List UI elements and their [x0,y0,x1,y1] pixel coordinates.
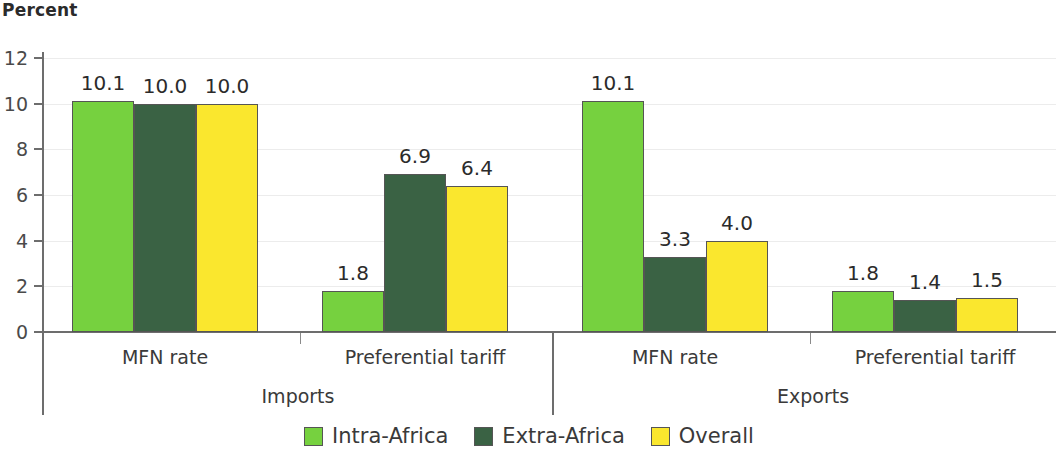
legend-item: Extra-Africa [474,424,624,448]
bar-value-label: 1.8 [337,261,369,285]
x-axis-category-label: Preferential tariff [855,346,1016,368]
plot-area: 10.110.010.01.86.96.410.13.34.01.81.41.5 [44,58,1056,332]
y-axis-tick-label: 8 [0,138,28,160]
bar-value-label: 6.9 [399,144,431,168]
group-separator-line [552,331,554,415]
legend-item: Intra-Africa [304,424,448,448]
y-axis-tick-mark [34,57,43,59]
legend-swatch [304,427,323,446]
legend-swatch [651,427,670,446]
legend-label: Overall [679,424,754,448]
y-axis-tick-label: 0 [0,321,28,343]
bar-value-label: 4.0 [721,211,753,235]
bar-value-label: 1.5 [971,268,1003,292]
x-axis-category-label: MFN rate [122,346,208,368]
y-axis-tick-mark [34,148,43,150]
bar-value-label: 6.4 [461,156,493,180]
bar [706,241,768,332]
legend-label: Extra-Africa [502,424,624,448]
bar-value-label: 10.0 [143,74,188,98]
y-axis-tick-label: 10 [0,93,28,115]
x-axis-tick-mark [300,333,301,344]
bar-value-label: 1.8 [847,261,879,285]
bar [956,298,1018,332]
bar [322,291,384,332]
bar [446,186,508,332]
y-axis-tick-label: 4 [0,230,28,252]
bar-value-label: 3.3 [659,227,691,251]
y-axis-tick-label: 6 [0,184,28,206]
y-axis-tick-label: 2 [0,275,28,297]
y-axis-tick-mark [34,240,43,242]
x-axis-group-label: Exports [777,385,849,407]
y-axis-tick-mark [34,103,43,105]
x-axis-category-label: MFN rate [632,346,718,368]
legend-label: Intra-Africa [332,424,448,448]
bar-value-label: 1.4 [909,270,941,294]
x-axis-group-label: Imports [262,385,335,407]
bar-value-label: 10.1 [591,71,636,95]
bar [894,300,956,332]
bar [582,101,644,332]
bar [644,257,706,332]
bar [134,104,196,332]
y-axis-tick-mark [34,194,43,196]
bar-value-label: 10.0 [205,74,250,98]
y-axis-tick-label: 12 [0,47,28,69]
gridline [44,58,1056,59]
legend-swatch [474,427,493,446]
bar [196,104,258,332]
bar-value-label: 10.1 [81,71,126,95]
x-axis-tick-mark [810,333,811,344]
x-axis-category-label: Preferential tariff [345,346,506,368]
bar [72,101,134,332]
y-axis-tick-mark [34,285,43,287]
y-axis-tick-mark [34,331,43,333]
bar [832,291,894,332]
legend-item: Overall [651,424,754,448]
bar [384,174,446,332]
chart-title: Percent [2,0,78,20]
chart-legend: Intra-AfricaExtra-AfricaOverall [0,424,1058,448]
